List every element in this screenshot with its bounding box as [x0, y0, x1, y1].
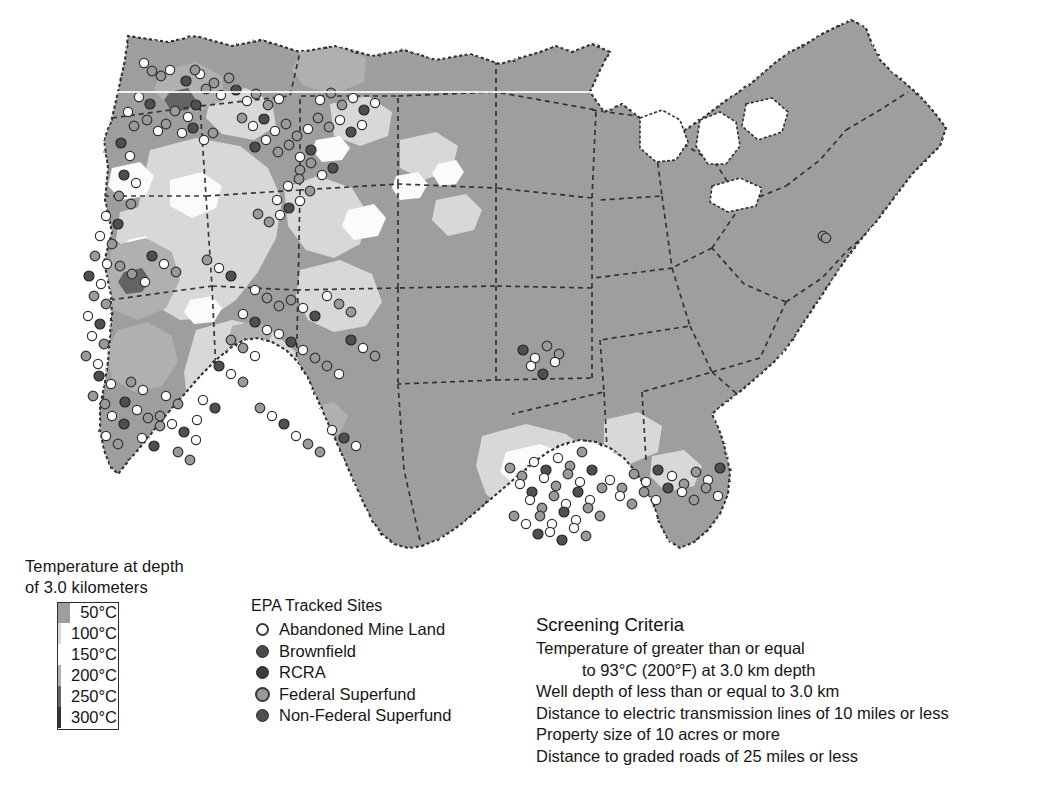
site-marker — [615, 491, 624, 500]
site-marker — [115, 261, 125, 271]
site-marker — [346, 127, 356, 137]
site-marker — [142, 115, 152, 125]
site-marker — [264, 217, 274, 227]
site-marker — [294, 174, 304, 184]
sites-legend-row: Non-Federal Superfund — [251, 705, 506, 727]
site-marker — [281, 119, 291, 129]
sites-legend-row: Abandoned Mine Land — [251, 619, 506, 641]
site-marker — [191, 435, 200, 444]
site-marker — [581, 531, 591, 541]
site-marker — [583, 503, 593, 513]
site-marker — [322, 361, 332, 371]
site-marker — [199, 135, 208, 144]
site-marker — [270, 126, 279, 135]
site-marker — [96, 279, 105, 288]
temperature-ramp-border — [57, 602, 119, 730]
site-marker — [274, 301, 284, 311]
site-marker — [155, 421, 165, 431]
site-marker — [267, 411, 276, 420]
site-marker — [595, 511, 605, 521]
temperature-legend-title: Temperature at depthof 3.0 kilometers — [25, 556, 235, 598]
site-marker — [170, 106, 180, 116]
site-marker — [641, 477, 650, 486]
site-marker — [575, 477, 584, 486]
site-marker — [83, 311, 92, 320]
site-marker — [126, 377, 136, 387]
site-marker — [334, 299, 344, 309]
site-marker — [147, 66, 157, 76]
site-marker — [185, 455, 195, 465]
site-marker — [298, 345, 307, 354]
site-marker — [242, 96, 251, 105]
site-marker — [93, 359, 102, 368]
site-marker — [177, 128, 186, 137]
site-marker — [127, 269, 137, 279]
site-marker — [713, 491, 722, 500]
site-marker — [653, 465, 663, 475]
filled-circle-marker — [251, 645, 273, 658]
site-marker — [116, 138, 126, 148]
site-marker — [821, 233, 831, 243]
site-marker — [715, 463, 725, 473]
site-marker — [202, 255, 212, 265]
site-marker — [327, 425, 336, 434]
site-marker — [84, 271, 94, 281]
site-marker — [525, 495, 534, 504]
site-marker — [179, 427, 189, 437]
site-marker — [701, 483, 711, 493]
site-marker — [629, 469, 639, 479]
site-marker — [149, 441, 159, 451]
site-marker — [521, 519, 530, 528]
site-marker — [145, 99, 155, 109]
site-marker — [255, 403, 265, 413]
site-marker — [99, 339, 109, 349]
figure-caption — [32, 796, 1012, 808]
site-marker — [322, 291, 331, 300]
site-marker — [181, 76, 191, 86]
site-marker — [248, 121, 257, 130]
site-marker — [107, 239, 117, 249]
site-marker — [529, 457, 538, 466]
site-marker — [129, 121, 139, 131]
site-marker — [262, 293, 272, 303]
site-marker — [143, 413, 153, 423]
site-marker — [326, 88, 336, 98]
site-marker — [317, 170, 326, 179]
site-marker — [226, 369, 235, 378]
site-marker — [553, 453, 562, 462]
site-marker — [539, 473, 548, 482]
site-marker — [509, 511, 519, 521]
site-marker — [275, 210, 284, 219]
site-marker — [339, 433, 349, 443]
temperature-legend-title-line2: of 3.0 kilometers — [25, 578, 148, 596]
screening-criteria-line: Property size of 10 acres or more — [536, 724, 1006, 746]
site-marker — [159, 259, 168, 268]
site-marker — [167, 419, 176, 428]
site-marker — [226, 271, 236, 281]
site-marker — [90, 251, 100, 261]
site-marker — [123, 107, 132, 116]
site-marker — [286, 337, 296, 347]
site-marker — [667, 471, 676, 480]
temperature-legend: Temperature at depthof 3.0 kilometers 50… — [25, 556, 235, 728]
site-marker — [224, 73, 234, 83]
site-marker — [250, 285, 259, 294]
site-marker — [334, 369, 343, 378]
site-marker — [286, 295, 296, 305]
screening-criteria-line: Temperature of greater than or equal — [536, 638, 1006, 660]
site-marker — [533, 529, 543, 539]
site-marker — [191, 100, 201, 110]
site-marker — [171, 267, 181, 277]
site-marker — [346, 307, 356, 317]
site-marker — [173, 447, 183, 457]
sites-legend: EPA Tracked Sites Abandoned Mine LandBro… — [251, 596, 506, 727]
site-marker — [89, 291, 99, 301]
site-marker — [101, 299, 111, 309]
site-marker — [147, 251, 157, 261]
site-marker — [273, 147, 283, 157]
site-marker — [95, 319, 105, 329]
site-marker — [201, 84, 211, 94]
site-marker — [214, 361, 224, 371]
site-marker — [101, 431, 110, 440]
site-marker — [303, 439, 313, 449]
